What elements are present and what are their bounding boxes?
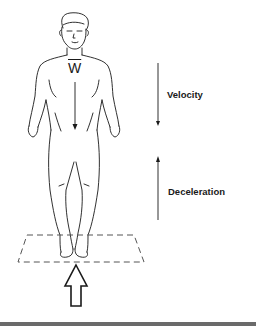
- weight-label: W: [68, 60, 81, 76]
- bottom-border: [0, 322, 256, 326]
- head: [60, 13, 89, 55]
- diagram-canvas: [0, 0, 256, 326]
- weight-vector: [73, 82, 78, 130]
- velocity-label: Velocity: [167, 89, 203, 100]
- velocity-arrow: [156, 63, 160, 126]
- deceleration-arrow: [156, 156, 160, 220]
- ground-plate: [18, 235, 144, 262]
- legs: [49, 130, 100, 257]
- deceleration-label: Deceleration: [168, 186, 225, 197]
- ground-reaction-arrow: [65, 265, 87, 306]
